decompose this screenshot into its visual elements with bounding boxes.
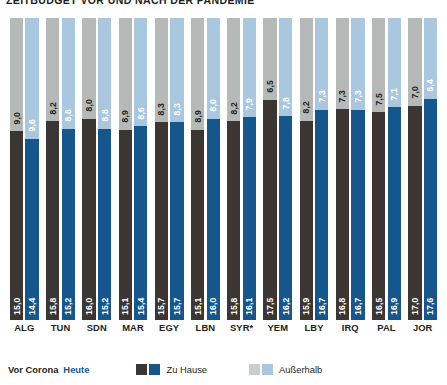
value-label: 16,0 [209, 298, 218, 316]
segment-home-pre-lby: 15,9 [300, 121, 313, 320]
segment-out-pre-syr: 8,2 [227, 18, 240, 121]
segment-out-now-irq: 7,3 [351, 18, 364, 110]
segment-home-pre-alg: 15,0 [10, 131, 23, 320]
value-label: 7,3 [338, 90, 347, 103]
bar-lby-pre[interactable]: 8,215,9 [300, 18, 313, 320]
segment-out-now-sdn: 8,8 [98, 18, 111, 129]
value-label: 17,5 [266, 298, 275, 316]
category-label-lbn: LBN [189, 322, 222, 338]
bar-alg-pre[interactable]: 9,015,0 [10, 18, 23, 320]
value-label: 7,0 [411, 87, 420, 100]
segment-home-pre-syr: 15,8 [227, 121, 240, 320]
bar-tun-now[interactable]: 8,815,2 [62, 18, 75, 320]
segment-home-now-jor: 17,6 [424, 99, 437, 320]
value-label: 15,9 [302, 298, 311, 316]
segment-home-now-alg: 14,4 [25, 139, 38, 320]
legend-text-ausserhalb: Außerhalb [279, 364, 322, 375]
bar-egy-now[interactable]: 8,315,7 [170, 18, 183, 320]
bar-mar-pre[interactable]: 8,915,1 [119, 18, 132, 320]
bar-syr-pre[interactable]: 8,215,8 [227, 18, 240, 320]
legend-item-zu-hause: Zu Hause [136, 364, 207, 375]
bar-sdn-pre[interactable]: 8,016,0 [82, 18, 95, 320]
bar-irq-pre[interactable]: 7,316,8 [336, 18, 349, 320]
bar-group-mar: 8,915,18,615,4 [117, 18, 150, 320]
bar-irq-now[interactable]: 7,316,7 [351, 18, 364, 320]
category-label-jor: JOR [406, 322, 439, 338]
value-label: 15,0 [12, 298, 21, 316]
value-label: 15,1 [121, 298, 130, 316]
category-label-syr: SYR* [225, 322, 258, 338]
bar-sdn-now[interactable]: 8,815,2 [98, 18, 111, 320]
value-label: 15,7 [157, 298, 166, 316]
value-label: 8,2 [302, 101, 311, 114]
segment-out-now-syr: 7,9 [243, 18, 256, 117]
bar-alg-now[interactable]: 9,614,4 [25, 18, 38, 320]
bar-group-alg: 9,015,09,614,4 [8, 18, 41, 320]
category-label-yem: YEM [262, 322, 295, 338]
bar-pal-pre[interactable]: 7,516,5 [372, 18, 385, 320]
value-label: 8,9 [193, 110, 202, 123]
bar-lby-now[interactable]: 7,316,7 [315, 18, 328, 320]
segment-home-pre-irq: 16,8 [336, 109, 349, 320]
bar-lbn-now[interactable]: 8,016,0 [207, 18, 220, 320]
bar-group-tun: 8,215,88,815,2 [44, 18, 77, 320]
value-label: 8,2 [48, 102, 57, 115]
bar-group-jor: 7,017,06,417,6 [406, 18, 439, 320]
segment-out-now-alg: 9,6 [25, 18, 38, 139]
segment-home-now-yem: 16,2 [279, 116, 292, 320]
value-label: 8,9 [121, 110, 130, 123]
bar-lbn-pre[interactable]: 8,915,1 [191, 18, 204, 320]
chart-legend: Vor Corona Heute Zu Hause Außerhalb [8, 360, 439, 378]
bar-mar-now[interactable]: 8,615,4 [134, 18, 147, 320]
value-label: 17,6 [426, 298, 435, 316]
segment-out-pre-pal: 7,5 [372, 18, 385, 112]
segment-home-pre-jor: 17,0 [408, 106, 421, 320]
bar-egy-pre[interactable]: 8,315,7 [155, 18, 168, 320]
category-label-alg: ALG [8, 322, 41, 338]
legend-text-zu-hause: Zu Hause [166, 364, 207, 375]
value-label: 15,7 [173, 298, 182, 316]
bar-syr-now[interactable]: 7,916,1 [243, 18, 256, 320]
segment-out-pre-lbn: 8,9 [191, 18, 204, 130]
value-label: 16,1 [245, 298, 254, 316]
segment-out-pre-egy: 8,3 [155, 18, 168, 122]
legend-swatch-ausserhalb-vor-corona [249, 364, 260, 375]
bar-tun-pre[interactable]: 8,215,8 [46, 18, 59, 320]
value-label: 9,0 [12, 112, 21, 125]
bar-pal-now[interactable]: 7,116,9 [388, 18, 401, 320]
segment-out-now-yem: 7,8 [279, 18, 292, 116]
segment-home-now-pal: 16,9 [388, 107, 401, 320]
segment-out-now-mar: 8,6 [134, 18, 147, 126]
bar-yem-now[interactable]: 7,816,2 [279, 18, 292, 320]
bar-group-egy: 8,315,78,315,7 [153, 18, 186, 320]
segment-home-now-lbn: 16,0 [207, 119, 220, 320]
bar-jor-pre[interactable]: 7,017,0 [408, 18, 421, 320]
value-label: 15,8 [230, 298, 239, 316]
segment-home-pre-lbn: 15,1 [191, 130, 204, 320]
segment-home-now-sdn: 15,2 [98, 129, 111, 320]
value-label: 6,5 [266, 80, 275, 93]
value-label: 16,0 [85, 298, 94, 316]
segment-out-now-egy: 8,3 [170, 18, 183, 122]
value-label: 16,5 [374, 298, 383, 316]
category-label-tun: TUN [44, 322, 77, 338]
value-label: 17,0 [411, 298, 420, 316]
value-label: 16,7 [354, 298, 363, 316]
segment-out-pre-jor: 7,0 [408, 18, 421, 106]
segment-out-pre-mar: 8,9 [119, 18, 132, 130]
bar-yem-pre[interactable]: 6,517,5 [263, 18, 276, 320]
chart-container: ZEITBUDGET VOR UND NACH DER PANDEMIE 9,0… [0, 0, 447, 385]
bar-group-yem: 6,517,57,816,2 [262, 18, 295, 320]
plot-area: 9,015,09,614,48,215,88,815,28,016,08,815… [8, 18, 439, 320]
value-label: 7,5 [374, 93, 383, 106]
legend-swatch-zu-hause-heute [149, 364, 160, 375]
segment-home-now-lby: 16,7 [315, 110, 328, 320]
segment-home-now-irq: 16,7 [351, 110, 364, 320]
legend-label-vor-corona: Vor Corona [8, 364, 58, 375]
bar-jor-now[interactable]: 6,417,6 [424, 18, 437, 320]
legend-item-ausserhalb: Außerhalb [249, 364, 322, 375]
value-label: 7,8 [281, 97, 290, 110]
value-label: 15,4 [136, 298, 145, 316]
value-label: 9,6 [28, 119, 37, 132]
segment-home-now-egy: 15,7 [170, 122, 183, 320]
